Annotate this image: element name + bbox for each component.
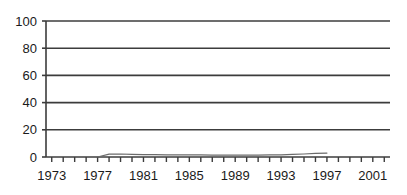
x-tick-label: 1989 bbox=[221, 168, 250, 183]
x-tick-label: 2001 bbox=[358, 168, 387, 183]
x-axis-tick-labels: 19731977198119851989199319972001 bbox=[37, 168, 387, 183]
y-axis-tick-labels: 020406080100 bbox=[15, 14, 37, 165]
x-tick-label: 1997 bbox=[312, 168, 341, 183]
y-tick-label: 80 bbox=[23, 41, 37, 56]
x-tick-label: 1973 bbox=[37, 168, 66, 183]
y-tick-label: 40 bbox=[23, 95, 37, 110]
y-tick-label: 20 bbox=[23, 122, 37, 137]
x-tick-label: 1993 bbox=[267, 168, 296, 183]
chart-canvas: 020406080100 197319771981198519891993199… bbox=[0, 0, 407, 195]
x-tick-label: 1977 bbox=[83, 168, 112, 183]
y-tick-label: 100 bbox=[15, 14, 37, 29]
x-tick-label: 1985 bbox=[175, 168, 204, 183]
line-chart: 020406080100 197319771981198519891993199… bbox=[0, 0, 407, 195]
y-tick-label: 60 bbox=[23, 68, 37, 83]
x-tick-label: 1981 bbox=[129, 168, 158, 183]
gridlines bbox=[46, 21, 390, 130]
y-tick-label: 0 bbox=[30, 150, 37, 165]
